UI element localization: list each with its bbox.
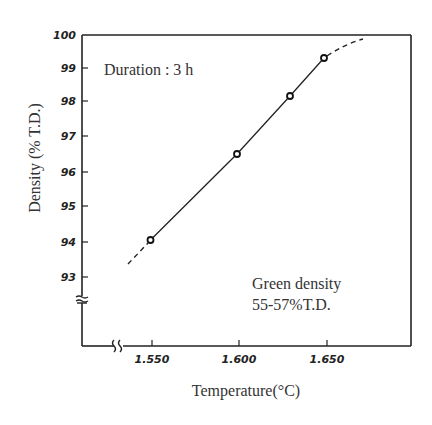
data-point-marker: [321, 55, 327, 61]
y-ticks: [82, 68, 88, 277]
data-point-marker: [234, 151, 240, 157]
x-tick-label: 1.650: [310, 353, 345, 366]
y-axis-title: Density (% T.D.): [26, 103, 44, 213]
extrapolation-low-line: [128, 243, 148, 264]
plot-frame: [82, 35, 411, 346]
x-axis-break-icon: [113, 340, 122, 352]
density-line: [151, 58, 325, 240]
y-tick-label: 96: [61, 166, 77, 179]
data-point-marker: [287, 93, 293, 99]
y-tick-label: 99: [61, 62, 77, 75]
extrapolation-high-line: [327, 39, 363, 56]
x-tick-label: 1.550: [135, 353, 170, 366]
x-tick-labels: 1.550 1.600 1.650: [135, 353, 345, 366]
y-tick-label: 98: [61, 95, 77, 108]
x-ticks: [152, 340, 327, 346]
y-tick-label: 100: [53, 29, 76, 42]
y-tick-labels: 100 99 98 97 96 95 94 93: [53, 29, 76, 284]
y-tick-label: 97: [61, 130, 77, 143]
x-tick-label: 1.600: [222, 353, 257, 366]
duration-annotation: Duration : 3 h: [104, 61, 193, 78]
green-density-value-annotation: 55-57%T.D.: [252, 296, 331, 313]
y-tick-label: 95: [61, 200, 77, 213]
data-point-marker: [148, 237, 154, 243]
x-axis-title: Temperature(°C): [192, 382, 300, 400]
y-axis-break-icon: [76, 296, 88, 303]
y-tick-label: 93: [61, 271, 77, 284]
green-density-annotation: Green density: [252, 275, 341, 293]
density-temperature-chart: 100 99 98 97 96 95 94 93 1.550 1.600 1.6…: [0, 0, 432, 425]
y-tick-label: 94: [61, 236, 76, 249]
